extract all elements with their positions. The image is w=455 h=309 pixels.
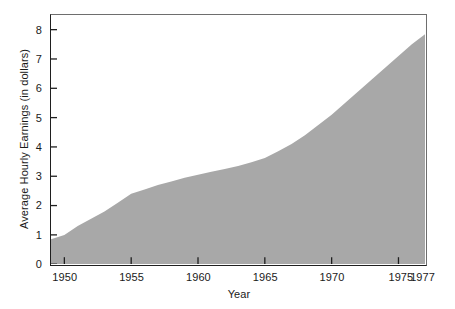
y-tick-label: 3	[8, 171, 42, 182]
x-tick-label: 1965	[253, 272, 278, 283]
x-tick-label: 1955	[119, 272, 144, 283]
area-series-fill	[51, 34, 425, 264]
y-tick-label: 6	[8, 83, 42, 94]
area-series-svg	[51, 15, 425, 264]
y-tick-label: 5	[8, 113, 42, 124]
x-tick-label: 1977	[410, 272, 435, 283]
y-tick-label: 1	[8, 230, 42, 241]
chart-figure: Average Hourly Earnings (in dollars) 012…	[0, 0, 455, 309]
x-tick-label: 1960	[186, 272, 211, 283]
x-axis-title: Year	[50, 288, 428, 301]
x-tick-label: 1950	[52, 272, 77, 283]
y-tick-label: 8	[8, 25, 42, 36]
y-axis-tick-marks	[51, 30, 57, 264]
y-tick-label: 7	[8, 54, 42, 65]
y-tick-label: 4	[8, 142, 42, 153]
plot-area	[50, 14, 427, 266]
y-tick-label: 2	[8, 200, 42, 211]
x-tick-label: 1970	[320, 272, 345, 283]
y-tick-label: 0	[8, 259, 42, 270]
